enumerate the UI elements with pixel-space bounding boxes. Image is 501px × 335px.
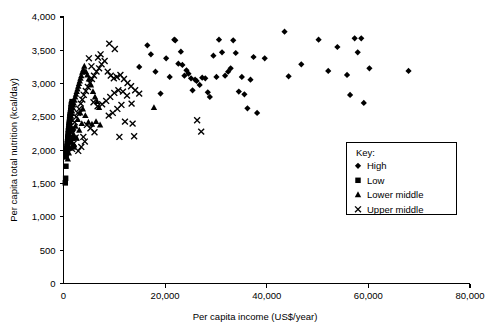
legend: Key: HighLowLower middleUpper middle <box>347 143 457 215</box>
marker-cross <box>130 121 136 127</box>
y-tick-label: 3,500 <box>32 45 56 56</box>
marker-diamond <box>352 35 358 41</box>
x-tick-group: 020,00040,00060,00080,000 <box>61 284 485 301</box>
series-upper-middle <box>69 41 204 154</box>
marker-cross <box>86 55 92 61</box>
marker-diamond <box>254 110 260 116</box>
marker-cross <box>92 129 98 135</box>
marker-cross <box>89 63 95 69</box>
marker-cross <box>80 134 86 140</box>
marker-diamond <box>241 91 247 97</box>
marker-diamond <box>298 61 304 67</box>
marker-diamond <box>236 89 242 95</box>
marker-diamond <box>250 54 256 60</box>
marker-diamond <box>315 37 321 43</box>
legend-item-label: Lower middle <box>367 189 424 200</box>
marker-diamond <box>355 49 361 55</box>
y-tick-label: 1,000 <box>32 211 56 222</box>
marker-diamond <box>262 55 268 61</box>
y-tick-label: 0 <box>50 278 55 289</box>
marker-diamond <box>281 29 287 35</box>
marker-diamond <box>366 65 372 71</box>
x-tick-label: 0 <box>61 290 66 301</box>
marker-diamond <box>136 64 142 70</box>
marker-diamond <box>163 55 169 61</box>
legend-item-label: High <box>367 160 387 171</box>
x-axis-title: Per capita income (US$/year) <box>193 311 318 322</box>
x-tick-label: 20,000 <box>151 290 180 301</box>
marker-diamond <box>148 51 154 57</box>
marker-cross <box>194 117 200 123</box>
marker-cross <box>82 139 88 145</box>
marker-diamond <box>405 68 411 74</box>
marker-diamond <box>189 87 195 93</box>
marker-diamond <box>233 50 239 56</box>
marker-cross <box>136 91 142 97</box>
legend-title: Key: <box>356 147 375 158</box>
marker-diamond <box>213 74 219 80</box>
marker-diamond <box>358 35 364 41</box>
y-tick-group: 05001,0001,5002,0002,5003,0003,5004,000 <box>32 11 64 289</box>
marker-cross <box>131 133 137 139</box>
marker-diamond <box>167 74 173 80</box>
x-tick-label: 40,000 <box>252 290 281 301</box>
x-tick-label: 80,000 <box>455 290 484 301</box>
plot-area: 05001,0001,5002,0002,5003,0003,5004,000 … <box>0 0 501 335</box>
marker-cross <box>116 134 122 140</box>
marker-cross <box>118 102 124 108</box>
marker-diamond <box>244 105 250 111</box>
y-tick-label: 2,500 <box>32 111 56 122</box>
y-axis-title: Per capita total nutrition (kcal/day) <box>8 78 19 222</box>
marker-cross <box>198 129 204 135</box>
marker-diamond <box>230 37 236 43</box>
marker-cross <box>75 148 81 154</box>
legend-item-label: Low <box>367 175 385 186</box>
marker-diamond <box>361 100 367 106</box>
marker-diamond <box>247 77 253 83</box>
marker-diamond <box>178 49 184 55</box>
marker-diamond <box>210 53 216 59</box>
marker-diamond <box>144 42 150 48</box>
marker-diamond <box>347 92 353 98</box>
series-high <box>136 29 412 116</box>
marker-cross <box>106 41 112 47</box>
marker-diamond <box>325 68 331 74</box>
y-tick-label: 500 <box>40 245 56 256</box>
marker-cross <box>129 101 135 107</box>
legend-item-label: Upper middle <box>367 204 424 215</box>
y-tick-label: 2,000 <box>32 145 56 156</box>
marker-cross <box>122 119 128 125</box>
marker-triangle <box>81 63 87 69</box>
marker-diamond <box>219 49 225 55</box>
marker-diamond <box>152 69 158 75</box>
marker-diamond <box>334 44 340 50</box>
marker-triangle <box>151 104 157 110</box>
y-tick-label: 1,500 <box>32 178 56 189</box>
marker-triangle <box>93 118 99 124</box>
y-tick-label: 3,000 <box>32 78 56 89</box>
y-tick-label: 4,000 <box>32 11 56 22</box>
marker-cross <box>124 93 130 99</box>
marker-cross <box>112 46 118 52</box>
marker-cross <box>102 58 108 64</box>
marker-diamond <box>157 91 163 97</box>
marker-diamond <box>344 72 350 78</box>
marker-diamond <box>216 37 222 43</box>
x-tick-label: 60,000 <box>354 290 383 301</box>
scatter-chart-figure: 05001,0001,5002,0002,5003,0003,5004,000 … <box>0 0 501 335</box>
marker-diamond <box>285 73 291 79</box>
marker-cross <box>95 55 101 61</box>
marker-square <box>355 178 360 183</box>
marker-diamond <box>239 74 245 80</box>
